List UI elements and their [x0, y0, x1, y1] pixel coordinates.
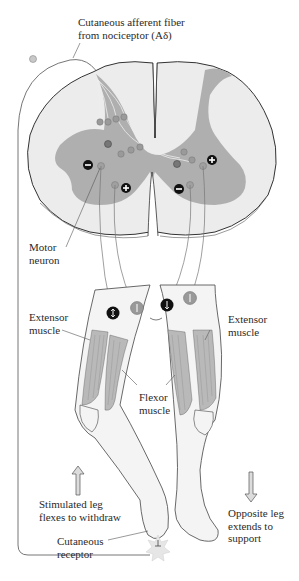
- inhibition-sign-right: [174, 184, 184, 194]
- right-flexor-badge-inhibited: [161, 299, 174, 312]
- afferent-fiber-label: Cutaneous afferent fiber from nociceptor…: [78, 16, 185, 41]
- left-extensor-label: Extensor muscle: [29, 311, 68, 336]
- afferent-label-leader: [73, 43, 80, 58]
- up-arrow-icon: [72, 466, 84, 495]
- flexor-label: Flexor muscle: [139, 391, 170, 416]
- left-extensor-badge-inhibited: [107, 307, 120, 320]
- right-extensor-label: Extensor muscle: [228, 313, 267, 338]
- excitation-sign-left: [121, 183, 131, 193]
- left-flexor-badge-excited: [131, 302, 144, 315]
- stimulated-leg-label: Stimulated leg flexes to withdraw: [39, 498, 121, 523]
- opposite-leg-label: Opposite leg extends to support: [228, 507, 284, 545]
- right-extensor-badge-excited: [184, 292, 197, 305]
- dorsal-root-ganglion: [30, 56, 37, 63]
- crotch-line: [150, 318, 162, 320]
- inhibition-sign-left: [83, 160, 93, 170]
- motor-neuron-label: Motor neuron: [29, 241, 60, 266]
- flexion-crossed-extension-reflex-diagram: [0, 0, 299, 581]
- stimulus-burst-icon: [146, 535, 170, 561]
- down-arrow-icon: [245, 472, 257, 502]
- cutaneous-receptor-label: Cutaneous receptor: [57, 535, 103, 560]
- excitation-sign-right: [207, 155, 217, 165]
